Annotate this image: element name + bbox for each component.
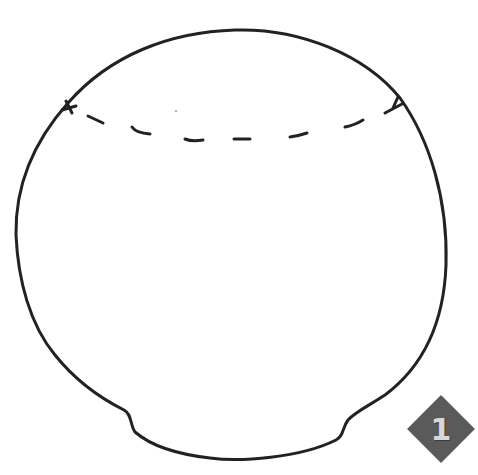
step-number-badge: 1 [407, 395, 475, 463]
step-number: 1 [407, 395, 475, 463]
dashed-cap-line [88, 116, 103, 123]
speck [175, 110, 177, 112]
sphere-outline [16, 30, 446, 460]
